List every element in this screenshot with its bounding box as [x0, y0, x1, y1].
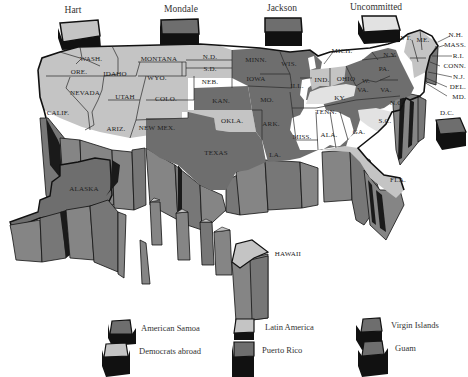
label-conn: CONN. — [443, 62, 466, 70]
hawaii — [232, 240, 268, 322]
label-minn: MINN. — [245, 56, 266, 64]
legend-mondale: Mondale — [160, 4, 199, 48]
label-latin-america: Latin America — [265, 322, 314, 332]
dc-cube — [436, 118, 466, 150]
label-ga: GA. — [353, 128, 366, 136]
label-neb: NEB. — [202, 78, 219, 86]
label-virgin-islands: Virgin Islands — [391, 320, 439, 330]
label-american-samoa: American Samoa — [141, 323, 200, 333]
label-nc: N.C. — [390, 99, 404, 107]
label-wash: WASH. — [80, 55, 103, 63]
legend-uncommitted: Uncommitted — [350, 2, 402, 44]
label-ohio: OHIO — [337, 75, 355, 83]
label-ky: KY. — [334, 94, 346, 102]
legend-hart-label: Hart — [65, 5, 82, 15]
label-montana: MONTANA — [141, 55, 178, 63]
label-guam: Guam — [395, 343, 416, 353]
label-okla: OKLA. — [221, 117, 243, 125]
legend-mondale-label: Mondale — [164, 4, 198, 14]
label-ark: ARK. — [262, 120, 279, 128]
label-mich: MICH. — [331, 47, 352, 55]
label-wyo: WYO. — [147, 74, 166, 82]
label-va: VA. — [380, 86, 392, 94]
label-idaho: IDAHO — [103, 70, 127, 78]
territory-guam: Guam — [358, 341, 416, 377]
label-newmex: NEW MEX. — [139, 124, 176, 132]
territory-puerto-rico: Puerto Rico — [232, 342, 302, 377]
territory-democrats-abroad: Democrats abroad — [102, 343, 202, 377]
label-ind: IND. — [315, 76, 330, 84]
label-me: ME. — [417, 36, 430, 44]
label-ny: N.Y. — [383, 51, 397, 59]
label-pa: PA. — [379, 65, 390, 73]
label-democrats-abroad: Democrats abroad — [139, 346, 202, 356]
label-nd: N.D. — [203, 53, 217, 61]
label-ariz: ARIZ. — [106, 125, 125, 133]
label-nj: N.J. — [453, 73, 465, 81]
label-mo: MO. — [260, 96, 274, 104]
label-sc: S.C. — [379, 117, 392, 125]
label-md: MD. — [452, 93, 466, 101]
label-wis: WIS. — [281, 60, 296, 68]
label-vt: VT. — [400, 34, 411, 42]
delegate-map: .hart{fill:#c4c4c4;} .mon{fill:#6e6e6e;}… — [0, 0, 468, 377]
label-tenn: TENN. — [315, 108, 336, 116]
territory-latin-america: Latin America — [234, 319, 314, 340]
legend-jackson: Jackson — [265, 3, 302, 46]
label-nevada: NEVADA — [70, 89, 100, 97]
label-utah: UTAH — [115, 93, 135, 101]
label-fla: FLA. — [390, 176, 406, 184]
label-ala: ALA. — [321, 131, 338, 139]
territory-american-samoa: American Samoa — [108, 320, 200, 346]
label-wva-w: W. — [362, 77, 370, 85]
label-hawaii: HAWAII — [275, 250, 302, 258]
label-iowa: IOWA — [246, 75, 265, 83]
label-alaska: ALASKA — [69, 185, 99, 193]
label-puerto-rico: Puerto Rico — [262, 345, 302, 355]
label-sd: S.D. — [203, 65, 216, 73]
label-texas: TEXAS — [204, 149, 228, 157]
legend-jackson-label: Jackson — [267, 3, 297, 13]
label-ri: R.I. — [453, 52, 464, 60]
label-dc: D.C. — [440, 109, 454, 117]
label-nh: N.H. — [449, 31, 463, 39]
label-colo: COLO. — [155, 95, 177, 103]
label-calif: CALIF. — [47, 109, 70, 117]
label-la: LA. — [269, 151, 281, 159]
label-ore: ORE. — [71, 68, 88, 76]
label-mass: MASS. — [444, 41, 466, 49]
label-wva-va: VA. — [357, 86, 369, 94]
label-ill: ILL. — [290, 82, 303, 90]
legend-uncommitted-label: Uncommitted — [350, 2, 402, 12]
label-del: DEL. — [450, 83, 466, 91]
legend-hart: Hart — [58, 5, 101, 50]
label-miss: MISS. — [292, 133, 311, 141]
label-kan: KAN. — [212, 97, 230, 105]
